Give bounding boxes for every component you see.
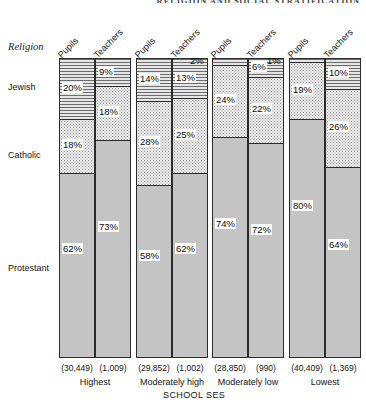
column-header-teachers: Teachers: [322, 27, 355, 60]
value-label-protestant: 72%: [251, 224, 272, 235]
column-header-pupils: Pupils: [286, 36, 310, 60]
column-header-pupils: Pupils: [133, 36, 157, 60]
row-axis-title: Religion: [8, 41, 44, 52]
value-label-catholic: 26%: [328, 121, 349, 132]
value-label-catholic: 25%: [175, 129, 196, 140]
value-label-protestant: 62%: [175, 243, 196, 254]
value-label-jewish: 10%: [328, 67, 349, 78]
segment-protestant: [326, 167, 360, 358]
value-label-catholic: 22%: [251, 103, 272, 114]
value-label-protestant: 64%: [328, 239, 349, 250]
column-header-pupils: Pupils: [56, 36, 80, 60]
bar-highest-pupils: [59, 58, 95, 358]
segment-protestant: [96, 140, 130, 358]
value-label-catholic: 19%: [292, 84, 313, 95]
segment-protestant: [173, 173, 207, 358]
segment-protestant: [137, 185, 171, 358]
sample-size-label: (1,369): [319, 363, 366, 373]
value-label-jewish: 14%: [139, 73, 160, 84]
segment-protestant: [213, 137, 247, 358]
value-label-protestant: 58%: [139, 250, 160, 261]
category-label-catholic: Catholic: [8, 150, 41, 160]
bar-highest-teachers: [95, 58, 131, 358]
value-label-jewish: 9%: [98, 66, 114, 77]
value-label-protestant: 73%: [98, 221, 119, 232]
stacked-bar-chart: RELIGION AND SOCIAL STRATIFICATION Relig…: [0, 0, 366, 408]
value-label-catholic: 24%: [215, 94, 236, 105]
category-label-jewish: Jewish: [8, 82, 36, 92]
value-label-protestant: 80%: [292, 200, 313, 211]
category-label-protestant: Protestant: [8, 263, 49, 273]
segment-protestant: [249, 143, 283, 358]
value-label-protestant: 62%: [62, 243, 83, 254]
group-label-lowest: Lowest: [267, 377, 366, 387]
x-axis-title: SCHOOL SES: [163, 390, 225, 400]
value-label-catholic: 28%: [139, 136, 160, 147]
value-label-jewish: 1%: [267, 55, 281, 66]
value-label-jewish: 6%: [251, 61, 267, 72]
column-header-teachers: Teachers: [92, 27, 125, 60]
value-label-catholic: 18%: [62, 139, 83, 150]
bar-lowest-teachers: [325, 58, 361, 358]
bar-moderately-high-pupils: [136, 58, 172, 358]
value-label-jewish: 2%: [190, 55, 204, 66]
segment-protestant: [60, 173, 94, 358]
value-label-protestant: 74%: [215, 218, 236, 229]
segment-protestant: [290, 119, 324, 358]
value-label-jewish: 13%: [175, 72, 196, 83]
value-label-catholic: 18%: [98, 106, 119, 117]
bar-moderately-high-teachers: [172, 58, 208, 358]
value-label-jewish: 20%: [62, 82, 83, 93]
column-header-pupils: Pupils: [209, 36, 233, 60]
running-head: RELIGION AND SOCIAL STRATIFICATION: [157, 0, 360, 3]
